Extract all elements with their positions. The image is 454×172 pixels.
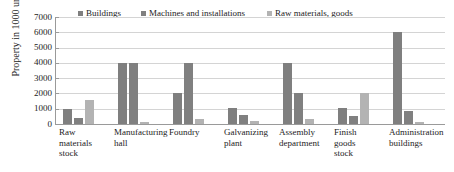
gridline bbox=[55, 93, 445, 94]
x-axis-tick-label-line: materials bbox=[59, 138, 92, 149]
x-axis-tick-label-line: Manufacturing bbox=[114, 127, 167, 138]
x-axis-tick-label: Finishgoodsstock bbox=[334, 127, 357, 159]
y-axis-tick-mark bbox=[55, 32, 59, 33]
y-axis-tick-label: 5000 bbox=[4, 43, 52, 52]
y-axis-tick-mark bbox=[55, 63, 59, 64]
bar bbox=[85, 100, 94, 124]
x-axis-tick-label-line: plant bbox=[224, 138, 268, 149]
y-axis-tick-label: 1000 bbox=[4, 104, 52, 113]
y-axis-tick-mark bbox=[55, 124, 59, 125]
bar-chart: Buildings Machines and installations Raw… bbox=[0, 0, 454, 172]
legend-swatch-raw-materials-goods bbox=[267, 11, 272, 16]
y-axis-tick-mark bbox=[55, 78, 59, 79]
bar bbox=[239, 115, 248, 124]
x-axis-tick-label: Foundry bbox=[169, 127, 200, 138]
x-axis-tick-label-line: goods bbox=[334, 138, 357, 149]
y-axis-tick-label: 3000 bbox=[4, 74, 52, 83]
y-axis-tick-mark bbox=[55, 93, 59, 94]
x-axis-tick-label-line: stock bbox=[334, 148, 357, 159]
x-axis-tick-label-line: Raw bbox=[59, 127, 92, 138]
bar bbox=[294, 93, 303, 124]
x-axis-tick-label: Assemblydepartment bbox=[279, 127, 319, 148]
bar bbox=[129, 63, 138, 124]
y-axis-tick-label: 0 bbox=[4, 120, 52, 129]
y-axis-tick-mark bbox=[55, 17, 59, 18]
y-axis-tick-mark bbox=[55, 48, 59, 49]
y-axis-tick-label: 4000 bbox=[4, 58, 52, 67]
bar-group bbox=[228, 108, 259, 124]
x-axis-tick-label-line: hall bbox=[114, 138, 167, 149]
bar-group bbox=[338, 93, 369, 124]
bar-group bbox=[63, 100, 94, 124]
bar-group bbox=[118, 63, 149, 124]
x-axis-tick-label: Galvanizingplant bbox=[224, 127, 268, 148]
x-axis-tick-label-line: Assembly bbox=[279, 127, 319, 138]
bar bbox=[228, 108, 237, 124]
bar bbox=[393, 32, 402, 124]
bar-group bbox=[393, 32, 424, 124]
legend-swatch-buildings bbox=[78, 11, 83, 16]
bar bbox=[63, 109, 72, 124]
gridline bbox=[55, 32, 445, 33]
bar bbox=[283, 63, 292, 124]
bar bbox=[118, 63, 127, 124]
bar-group bbox=[283, 63, 314, 124]
x-axis-labels: RawmaterialsstockManufacturinghallFoundr… bbox=[55, 127, 445, 172]
bar bbox=[173, 93, 182, 124]
x-axis-tick-label-line: Administration bbox=[389, 127, 444, 138]
legend-swatch-machines-and-installations bbox=[141, 11, 146, 16]
x-axis-tick-label: Rawmaterialsstock bbox=[59, 127, 92, 159]
y-axis-tick-mark bbox=[55, 109, 59, 110]
y-axis-ticks: 70006000500040003000200010000 bbox=[0, 17, 52, 125]
x-axis-tick-label-line: Galvanizing bbox=[224, 127, 268, 138]
x-axis-tick-label-line: Finish bbox=[334, 127, 357, 138]
bar bbox=[404, 111, 413, 124]
gridline bbox=[55, 78, 445, 79]
y-axis-tick-label: 6000 bbox=[4, 28, 52, 37]
bar bbox=[184, 63, 193, 124]
x-axis-tick-label: Administrationbuildings bbox=[389, 127, 444, 148]
x-axis-tick-label-line: stock bbox=[59, 148, 92, 159]
bar bbox=[338, 108, 347, 124]
bar bbox=[349, 116, 358, 124]
bar-group bbox=[173, 63, 204, 124]
gridline bbox=[55, 17, 445, 18]
y-axis-tick-label: 7000 bbox=[4, 13, 52, 22]
y-axis-tick-label: 2000 bbox=[4, 89, 52, 98]
gridline bbox=[55, 63, 445, 64]
plot-area bbox=[55, 17, 445, 124]
x-axis-tick-label-line: Foundry bbox=[169, 127, 200, 138]
gridline bbox=[55, 48, 445, 49]
bar bbox=[360, 93, 369, 124]
x-axis-line bbox=[55, 124, 445, 125]
x-axis-tick-label: Manufacturinghall bbox=[114, 127, 167, 148]
x-axis-tick-label-line: buildings bbox=[389, 138, 444, 149]
x-axis-tick-label-line: department bbox=[279, 138, 319, 149]
